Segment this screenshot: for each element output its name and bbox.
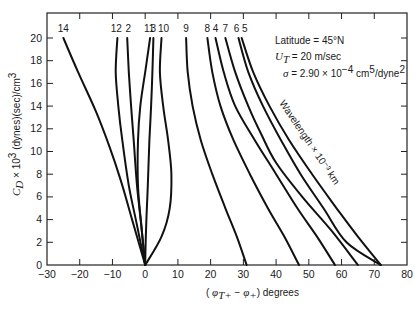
y-tick-label: 4 [36,213,42,225]
y-title-times: × 10 [11,158,22,181]
curve-9 [186,38,247,265]
y-tick-label: 0 [36,259,42,271]
chart-canvas: −30−20−1001020304050607080 0246810121416… [0,0,420,310]
curve-12 [116,38,146,265]
y-tick-label: 8 [36,168,42,180]
x-tick-label: 20 [205,268,217,280]
curve-label-7: 7 [223,23,229,34]
ut-value: = 20 m/sec [289,51,341,62]
annotation-block: Latitude = 45°N UT = 20 m/sec σ = 2.90 ×… [275,35,405,79]
sigma-unit: cm [353,68,369,79]
x-title-close: ) degrees [257,287,299,298]
y-title-units-exp: 3 [7,72,18,78]
x-tick-label: 40 [270,268,282,280]
x-title-sub1: T+ [218,289,232,301]
curve-label-3: 3 [151,23,157,34]
x-tick-label: −20 [71,268,89,280]
x-tick-label: −10 [104,268,122,280]
wavelength-label: Wavelength × 10⁻³ km [277,98,342,187]
y-tick-label: 10 [30,145,42,157]
x-tick-labels: −30−20−1001020304050607080 [38,268,413,280]
x-axis-title: ( φT+ − φ+) degrees [206,286,299,301]
y-tick-label: 12 [30,122,42,134]
curve-label-5: 5 [242,23,248,34]
axis-ticks [47,13,407,265]
plot-frame [47,13,407,265]
y-tick-label: 2 [36,236,42,248]
curve-label-10: 10 [158,23,170,34]
x-tick-label: 30 [238,268,250,280]
x-tick-label: 80 [401,268,413,280]
curve-label-2: 2 [125,23,131,34]
curve-label-14: 14 [58,23,70,34]
y-axis-title: CD × 103 (dynes)(sec)/cm3 [7,72,25,196]
curve-labels: 1412211310984765 [58,23,248,34]
y-tick-label: 20 [30,32,42,44]
x-title-minus: − [232,287,243,298]
sigma-value: = 2.90 × 10 [288,68,342,79]
curve-14 [63,38,145,265]
y-tick-label: 16 [30,77,42,89]
x-tick-label: 50 [303,268,315,280]
curve-label-8: 8 [205,23,211,34]
annotation-sigma: σ = 2.90 × 10−4 cm5/dyne2 [283,64,405,79]
x-tick-label: 70 [368,268,380,280]
sigma-unit-tail-exponent: 2 [399,64,405,75]
y-tick-label: 14 [30,100,42,112]
curve-label-9: 9 [183,23,189,34]
sigma-exponent: −4 [342,64,354,75]
y-tick-labels: 02468101214161820 [30,32,42,271]
y-title-units: (dynes)(sec)/cm [11,78,22,152]
sigma-unit-tail: /dyne [375,68,400,79]
y-tick-label: 6 [36,190,42,202]
curve-label-4: 4 [213,23,219,34]
x-tick-label: 60 [336,268,348,280]
curve-label-12: 12 [111,23,123,34]
curve-label-6: 6 [234,23,240,34]
y-tick-label: 18 [30,54,42,66]
curve-3 [145,38,153,265]
x-title-sub2: + [249,289,256,301]
x-tick-label: 10 [172,268,184,280]
y-title-sub: D [13,181,25,190]
annotation-ut: UT = 20 m/sec [275,50,341,65]
x-tick-label: 0 [142,268,148,280]
annotation-latitude: Latitude = 45°N [275,35,344,46]
